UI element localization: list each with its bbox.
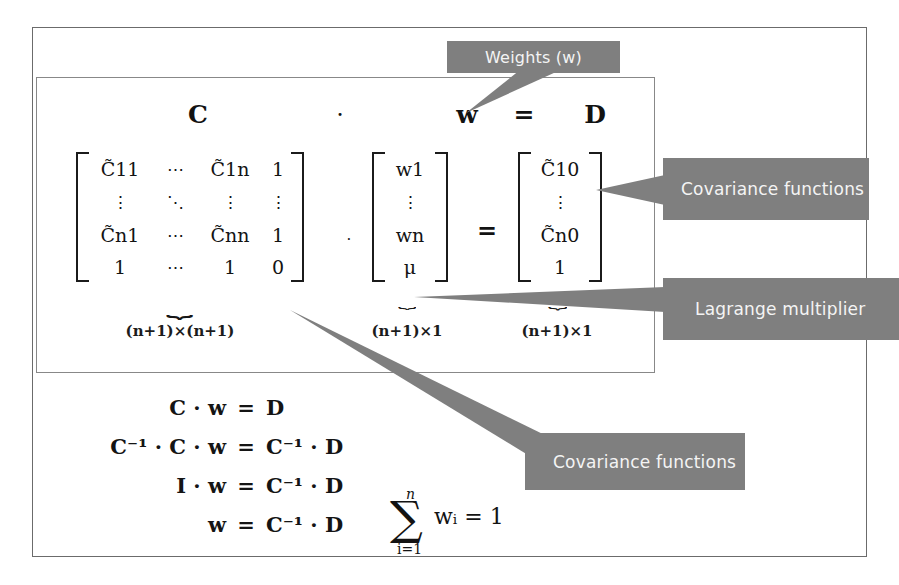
callout-lagrange-label: Lagrange multiplier: [695, 299, 865, 319]
bracket-left-vector-w: [370, 152, 383, 282]
underbrace-vector-w: ⏟: [366, 291, 448, 308]
symbol-equals-top: =: [504, 98, 544, 132]
matrix-cell: ⋱: [153, 186, 197, 218]
derivation-lhs: C · w: [44, 395, 226, 420]
sigma-icon: ∑: [390, 495, 423, 541]
matrix-cell: C̃1n: [197, 152, 263, 186]
summation-body: wᵢ = 1: [434, 504, 504, 529]
matrix-cell: C̃n1: [87, 218, 153, 252]
vector-cell: C̃n0: [529, 218, 591, 252]
matrix-cell: 1: [263, 152, 293, 186]
symbol-vector-w: w: [446, 98, 488, 132]
summation-lower-limit: i=1: [397, 541, 422, 557]
matrix-cell: C̃11: [87, 152, 153, 186]
callout-covariance-right-label: Covariance functions: [681, 179, 864, 199]
vector-cell: ⋮: [529, 186, 591, 218]
derivation-lhs: w: [44, 512, 226, 537]
derivation-lhs: C⁻¹ · C · w: [44, 434, 226, 459]
dimension-label-matrix-c: (n+1)×(n+1): [68, 322, 292, 340]
vector-cell: C̃10: [529, 152, 591, 186]
callout-weights-label: Weights (w): [485, 48, 582, 67]
callout-covariance-functions-bottom: Covariance functions: [525, 433, 745, 490]
callout-weights: Weights (w): [447, 41, 620, 73]
matrix-cell: ⋯: [153, 252, 197, 282]
derivation-row: C⁻¹ · C · w = C⁻¹ · D: [44, 427, 404, 466]
bracket-right-vector-d: [591, 152, 604, 282]
diagram-canvas: C · w = D C̃11 ⋯ C̃1n 1 ⋮ ⋱ ⋮ ⋮ C̃n1 ⋯ C…: [0, 0, 899, 585]
underbrace-vector-d: ⏟: [512, 291, 602, 309]
callout-covariance-functions-right: Covariance functions: [663, 158, 869, 220]
derivation-row: w = C⁻¹ · D: [44, 505, 404, 544]
derivation-equals: =: [226, 473, 266, 498]
symbol-multiply-dot-top: ·: [329, 98, 351, 132]
derivation-equals: =: [226, 434, 266, 459]
vector-cell: 1: [529, 252, 591, 282]
matrix-cell: ⋯: [153, 152, 197, 186]
matrix-cell: C̃nn: [197, 218, 263, 252]
bracket-left-vector-d: [516, 152, 529, 282]
vector-cell: w1: [383, 152, 437, 186]
matrix-cell: ⋯: [153, 218, 197, 252]
derivation-equals: =: [226, 395, 266, 420]
underbrace-matrix-c: ⏟: [70, 291, 290, 316]
derivation-row: I · w = C⁻¹ · D: [44, 466, 404, 505]
derivation-lhs: I · w: [44, 473, 226, 498]
derivation-equals: =: [226, 512, 266, 537]
matrix-cell: ⋮: [263, 186, 293, 218]
bracket-left-matrix-c: [74, 152, 87, 282]
matrix-cell: 0: [263, 252, 293, 282]
derivation-rhs: C⁻¹ · D: [266, 434, 404, 459]
matrix-cell: ⋮: [87, 186, 153, 218]
bracket-right-matrix-c: [293, 152, 306, 282]
dimension-label-vector-d: (n+1)×1: [508, 322, 606, 340]
symbol-matrix-C: C: [168, 98, 228, 132]
callout-lagrange-multiplier: Lagrange multiplier: [663, 278, 899, 340]
derivation-block: C · w = D C⁻¹ · C · w = C⁻¹ · D I · w = …: [44, 388, 404, 544]
symbol-equals-matrices: =: [470, 216, 504, 245]
symbol-vector-D: D: [570, 98, 620, 132]
matrix-cell: 1: [197, 252, 263, 282]
bracket-right-vector-w: [437, 152, 450, 282]
symbol-multiply-dot-matrices: ·: [340, 230, 358, 248]
summation-constraint: n ∑ i=1 wᵢ = 1: [390, 487, 570, 561]
matrix-cell: 1: [87, 252, 153, 282]
matrix-cell: ⋮: [197, 186, 263, 218]
vector-cell: ⋮: [383, 186, 437, 218]
vector-cell: μ: [383, 252, 437, 282]
vector-cell: wn: [383, 218, 437, 252]
dimension-label-vector-w: (n+1)×1: [360, 322, 454, 340]
matrix-C: C̃11 ⋯ C̃1n 1 ⋮ ⋱ ⋮ ⋮ C̃n1 ⋯ C̃nn 1 1 ⋯ …: [74, 152, 306, 282]
callout-covariance-bottom-label: Covariance functions: [553, 452, 736, 472]
derivation-rhs: C⁻¹ · D: [266, 473, 404, 498]
derivation-rhs: C⁻¹ · D: [266, 512, 404, 537]
matrix-cell: 1: [263, 218, 293, 252]
derivation-rhs: D: [266, 395, 404, 420]
vector-w: w1 ⋮ wn μ: [370, 152, 450, 282]
derivation-row: C · w = D: [44, 388, 404, 427]
vector-D: C̃10 ⋮ C̃n0 1: [516, 152, 604, 282]
